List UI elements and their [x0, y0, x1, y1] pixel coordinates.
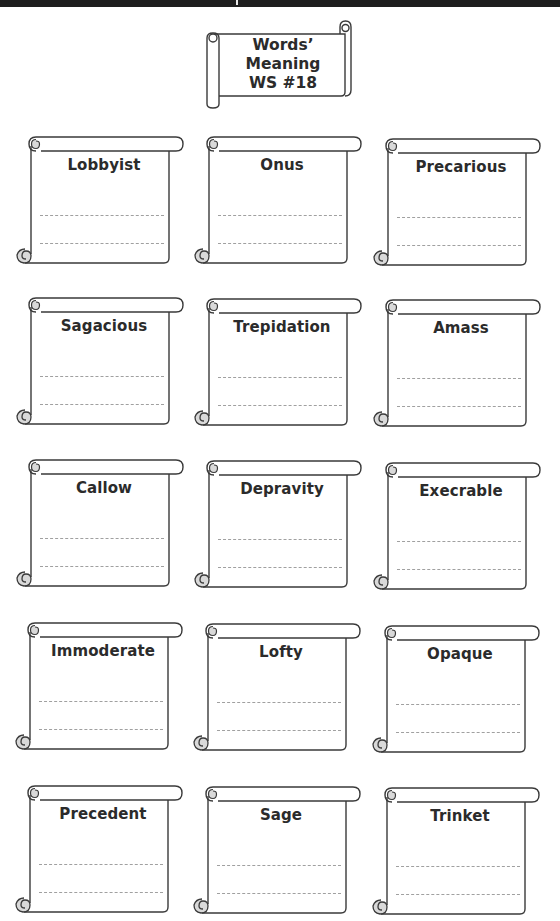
- answer-line[interactable]: [217, 730, 341, 731]
- answer-line[interactable]: [218, 567, 342, 568]
- vocabulary-word: Precarious: [391, 158, 531, 176]
- vocabulary-word: Immoderate: [33, 642, 173, 660]
- answer-line[interactable]: [218, 377, 342, 378]
- answer-line[interactable]: [397, 217, 521, 218]
- answer-line[interactable]: [218, 405, 342, 406]
- worksheet-title: Words’ Meaning WS #18: [215, 36, 351, 93]
- vocabulary-word: Lobbyist: [34, 156, 174, 174]
- word-card: Onus: [194, 136, 366, 268]
- answer-line[interactable]: [40, 566, 164, 567]
- answer-line[interactable]: [397, 541, 521, 542]
- title-line-3: WS #18: [215, 74, 351, 93]
- word-card: Execrable: [373, 462, 545, 594]
- word-card: Lofty: [193, 623, 365, 755]
- word-card: Trinket: [372, 787, 544, 919]
- vocabulary-word: Onus: [212, 156, 352, 174]
- word-card: Opaque: [372, 625, 544, 757]
- word-card: Immoderate: [15, 622, 187, 754]
- word-card: Trepidation: [194, 298, 366, 430]
- title-scroll: Words’ Meaning WS #18: [0, 0, 560, 120]
- answer-line[interactable]: [217, 893, 341, 894]
- word-card: Callow: [16, 459, 188, 591]
- answer-line[interactable]: [40, 538, 164, 539]
- vocabulary-word: Callow: [34, 479, 174, 497]
- vocabulary-word: Execrable: [391, 482, 531, 500]
- vocabulary-word: Precedent: [33, 805, 173, 823]
- vocabulary-word: Depravity: [212, 480, 352, 498]
- answer-line[interactable]: [39, 864, 163, 865]
- answer-line[interactable]: [397, 569, 521, 570]
- answer-line[interactable]: [39, 729, 163, 730]
- answer-line[interactable]: [40, 243, 164, 244]
- vocabulary-word: Trepidation: [212, 318, 352, 336]
- title-line-1: Words’: [215, 36, 351, 55]
- vocabulary-word: Trinket: [390, 807, 530, 825]
- vocabulary-word: Sage: [211, 806, 351, 824]
- answer-line[interactable]: [396, 732, 520, 733]
- vocabulary-word: Opaque: [390, 645, 530, 663]
- answer-line[interactable]: [40, 215, 164, 216]
- answer-line[interactable]: [39, 701, 163, 702]
- word-card: Depravity: [194, 460, 366, 592]
- vocabulary-word: Sagacious: [34, 317, 174, 335]
- answer-line[interactable]: [218, 539, 342, 540]
- answer-line[interactable]: [40, 376, 164, 377]
- vocabulary-word: Lofty: [211, 643, 351, 661]
- answer-line[interactable]: [396, 704, 520, 705]
- word-card: Amass: [373, 299, 545, 431]
- word-card: Sagacious: [16, 297, 188, 429]
- word-card: Lobbyist: [16, 136, 188, 268]
- answer-line[interactable]: [39, 892, 163, 893]
- answer-line[interactable]: [396, 894, 520, 895]
- word-card: Precarious: [373, 138, 545, 270]
- word-card: Precedent: [15, 785, 187, 917]
- answer-line[interactable]: [217, 702, 341, 703]
- word-card: Sage: [193, 786, 365, 918]
- title-line-2: Meaning: [215, 55, 351, 74]
- answer-line[interactable]: [397, 406, 521, 407]
- answer-line[interactable]: [397, 245, 521, 246]
- answer-line[interactable]: [217, 865, 341, 866]
- answer-line[interactable]: [40, 404, 164, 405]
- answer-line[interactable]: [218, 243, 342, 244]
- answer-line[interactable]: [396, 866, 520, 867]
- answer-line[interactable]: [218, 215, 342, 216]
- answer-line[interactable]: [397, 378, 521, 379]
- vocabulary-word: Amass: [391, 319, 531, 337]
